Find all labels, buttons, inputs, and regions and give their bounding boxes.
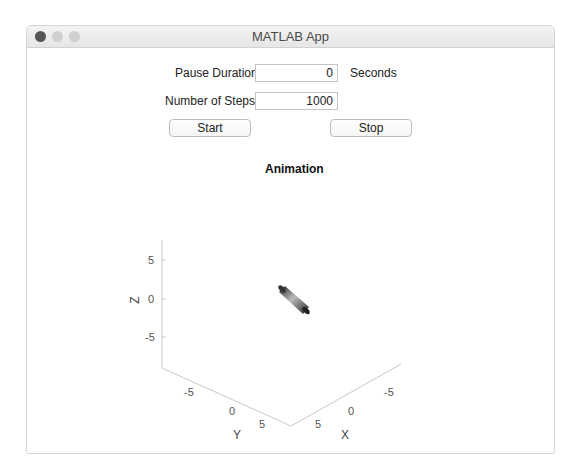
z-tick-0: 0: [148, 293, 154, 305]
stop-button[interactable]: Stop: [330, 119, 412, 137]
start-button[interactable]: Start: [169, 119, 251, 137]
number-of-steps-field[interactable]: 1000: [255, 92, 338, 110]
y-tick-neg5: -5: [184, 386, 194, 398]
pause-duration-field[interactable]: 0: [255, 64, 338, 82]
z-tick-neg5: -5: [145, 331, 155, 343]
seconds-unit-label: Seconds: [350, 66, 397, 80]
number-of-steps-label: Number of Steps: [165, 94, 255, 108]
x-tick-5: 5: [315, 418, 321, 430]
z-tick-5: 5: [148, 254, 154, 266]
animation-axes[interactable]: [27, 26, 555, 454]
window-title: MATLAB App: [27, 29, 554, 44]
axes-title: Animation: [265, 162, 324, 176]
x-tick-0: 0: [348, 405, 354, 417]
y-tick-5: 5: [259, 418, 265, 430]
pause-duration-label: Pause Duration: [175, 66, 258, 80]
x-tick-neg5: -5: [384, 386, 394, 398]
cylinder-object: [277, 284, 311, 315]
x-axis-label: X: [341, 428, 349, 442]
y-tick-0: 0: [229, 405, 235, 417]
title-bar: MATLAB App: [27, 26, 554, 48]
z-axis-label: Z: [128, 296, 142, 303]
y-axis-label: Y: [233, 428, 241, 442]
app-window: MATLAB App Pause Duration 0 Seconds Numb…: [26, 25, 555, 454]
